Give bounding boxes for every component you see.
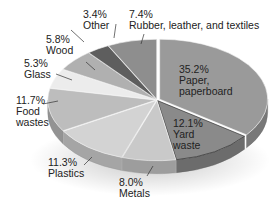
- label-plastics-name: Plastics: [48, 168, 84, 179]
- label-wood-name: Wood: [46, 45, 73, 56]
- label-glass-name: Glass: [24, 69, 51, 80]
- pie-slices: [48, 39, 268, 161]
- label-wood: 5.8% Wood: [46, 34, 73, 56]
- label-yard: 12.1% Yard waste: [173, 118, 203, 151]
- label-metals-name: Metals: [119, 188, 150, 199]
- label-rubber-name: Rubber, leather, and textiles: [129, 20, 259, 31]
- label-rubber: 7.4% Rubber, leather, and textiles: [129, 9, 259, 31]
- label-other: 3.4% Other: [83, 9, 109, 31]
- label-plastics: 11.3% Plastics: [48, 157, 84, 179]
- label-paper: 35.2% Paper, paperboard: [179, 64, 233, 97]
- label-food-name2: wastes: [16, 117, 49, 128]
- label-other-name: Other: [83, 20, 109, 31]
- label-metals: 8.0% Metals: [119, 177, 150, 199]
- label-food: 11.7% Food wastes: [16, 95, 49, 128]
- label-yard-name2: waste: [173, 140, 203, 151]
- label-paper-name2: paperboard: [179, 86, 233, 97]
- label-glass: 5.3% Glass: [24, 58, 51, 80]
